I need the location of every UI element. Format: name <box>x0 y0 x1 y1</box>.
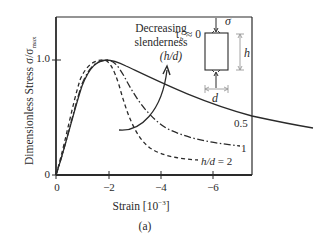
approx-zero: ≈ 0 <box>183 28 201 40</box>
y-axis-label-main: Dimensionless Stress σ/σ <box>23 48 35 165</box>
bond-stress-label: τb ≈ 0 <box>175 29 201 43</box>
axis-ticks <box>52 60 213 179</box>
curve-hd-2 <box>56 60 198 175</box>
specimen-block <box>205 33 228 70</box>
figure-caption: (a) <box>139 221 152 233</box>
annot-line-3: (h/d) <box>122 50 200 64</box>
width-label: d <box>212 92 218 104</box>
x-tick-2: −2 <box>103 182 115 193</box>
stress-strain-chart: 1.0 0 0 −2 −4 −6 Dimensionless Stress σ/… <box>0 0 329 239</box>
x-axis-label: Strain [10−3] <box>113 200 170 212</box>
height-label: h <box>244 47 250 59</box>
x-tick-6: −6 <box>207 182 219 193</box>
curve-hd-0.5 <box>56 60 313 175</box>
y-axis-label: Dimensionless Stress σ/σmax <box>24 36 38 165</box>
y-tick-0: 0 <box>32 169 50 180</box>
curve-label-2-hd: h/d <box>201 155 215 167</box>
sigma-label: σ <box>225 15 231 27</box>
y-axis-label-sub: max <box>30 36 38 48</box>
x-axis-label-main: Strain [10 <box>113 200 159 212</box>
x-axis-label-close: ] <box>166 200 170 212</box>
x-tick-0: 0 <box>54 182 60 193</box>
dimension-h <box>236 34 244 70</box>
curves <box>56 60 313 175</box>
curve-label-0.5: 0.5 <box>234 118 248 129</box>
curve-label-1: 1 <box>241 143 247 154</box>
x-tick-4: −4 <box>155 182 167 193</box>
specimen-inset <box>205 18 244 93</box>
decreasing-slenderness-arrow <box>119 66 170 130</box>
curve-label-2-eq: = 2 <box>215 155 232 167</box>
curve-label-2: h/d = 2 <box>201 156 232 167</box>
